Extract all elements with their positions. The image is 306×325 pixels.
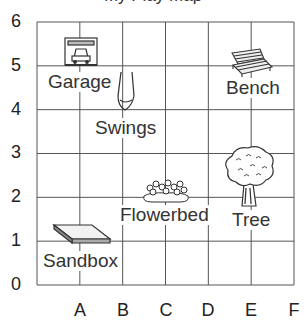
y-axis-label-5: 5 (6, 55, 26, 76)
bench-icon (232, 49, 272, 77)
label-swings: Swings (94, 118, 157, 138)
y-axis-label-1: 1 (6, 230, 26, 251)
y-axis-label-2: 2 (6, 186, 26, 207)
y-axis-label-6: 6 (6, 11, 26, 32)
x-axis-label-a: A (70, 300, 90, 321)
label-sandbox: Sandbox (42, 251, 119, 271)
y-axis-label-0: 0 (6, 274, 26, 295)
x-axis-label-e: E (241, 300, 261, 321)
grid (0, 0, 306, 325)
y-axis-label-3: 3 (6, 142, 26, 163)
x-axis-label-b: B (113, 300, 133, 321)
x-axis-label-d: D (198, 300, 218, 321)
label-garage: Garage (47, 72, 112, 92)
map-title: My Play Map (0, 0, 306, 6)
x-axis-label-c: C (156, 300, 176, 321)
coordinate-grid-map: My Play Map 0 1 2 3 4 5 6 A B C D E F Ga… (0, 0, 306, 325)
label-tree: Tree (231, 210, 271, 230)
x-axis-label-f: F (284, 300, 304, 321)
y-axis-label-4: 4 (6, 99, 26, 120)
swings-icon (118, 72, 134, 110)
label-flowerbed: Flowerbed (119, 205, 210, 225)
sandbox-icon (54, 225, 110, 243)
flowerbed-icon (144, 180, 189, 202)
garage-icon (65, 38, 97, 65)
label-bench: Bench (225, 78, 281, 98)
